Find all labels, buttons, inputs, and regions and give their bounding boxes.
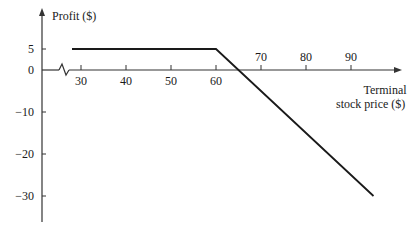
y-tick-label: 5	[28, 42, 34, 56]
x-tick-label: 50	[165, 74, 177, 88]
profit-line	[72, 49, 374, 196]
x-tick-label: 70	[255, 50, 267, 64]
x-tick-label: 90	[345, 50, 357, 64]
axes	[39, 8, 402, 222]
x-axis-title-line1: Terminal	[355, 83, 415, 98]
x-tick-label: 30	[75, 74, 87, 88]
y-axis-arrow-icon	[39, 8, 45, 16]
y-axis-title: Profit ($)	[52, 9, 96, 24]
axis-break-icon	[59, 64, 69, 75]
x-tick-label: 60	[210, 74, 222, 88]
y-tick-label: −10	[15, 105, 34, 119]
y-tick-label: −30	[15, 189, 34, 203]
series	[72, 49, 374, 196]
x-axis-arrow-icon	[394, 67, 402, 73]
y-tick-label: 0	[28, 63, 34, 77]
profit-chart: 50−10−20−3030405060708090	[0, 0, 420, 235]
x-tick-label: 40	[120, 74, 132, 88]
x-tick-label: 80	[300, 50, 312, 64]
y-tick-label: −20	[15, 147, 34, 161]
x-axis-title-line2: stock price ($)	[336, 97, 405, 112]
ticks: 50−10−20−3030405060708090	[15, 42, 357, 203]
